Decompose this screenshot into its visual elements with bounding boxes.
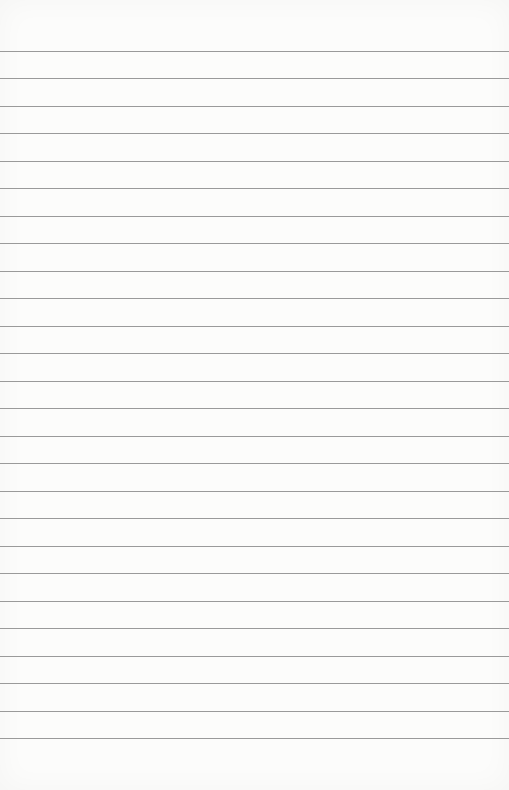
ruled-line (0, 381, 509, 382)
ruled-line (0, 133, 509, 134)
ruled-line (0, 518, 509, 519)
ruled-line (0, 573, 509, 574)
lined-paper-page (0, 0, 509, 790)
ruled-line (0, 408, 509, 409)
ruled-line (0, 106, 509, 107)
ruled-line (0, 463, 509, 464)
ruled-line (0, 656, 509, 657)
ruled-line (0, 188, 509, 189)
ruled-line (0, 683, 509, 684)
ruled-line (0, 546, 509, 547)
ruled-line (0, 243, 509, 244)
ruled-line (0, 628, 509, 629)
ruled-line (0, 78, 509, 79)
ruled-line (0, 161, 509, 162)
ruled-line (0, 491, 509, 492)
ruled-line (0, 216, 509, 217)
ruled-line (0, 298, 509, 299)
ruled-line (0, 436, 509, 437)
ruled-line (0, 601, 509, 602)
ruled-line (0, 738, 509, 739)
ruled-line (0, 271, 509, 272)
ruled-line (0, 51, 509, 52)
ruled-line (0, 326, 509, 327)
ruled-line (0, 711, 509, 712)
ruled-line (0, 353, 509, 354)
